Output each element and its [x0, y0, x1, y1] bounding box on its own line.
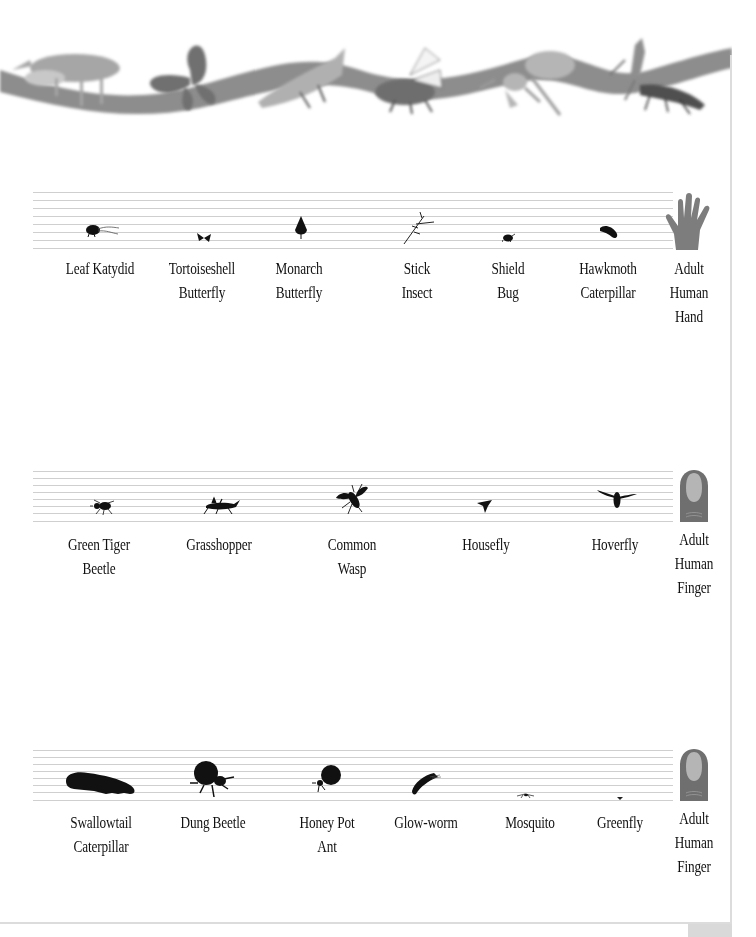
label-leaf-katydid: Leaf Katydid: [61, 257, 139, 281]
label-greenfly: Greenfly: [581, 811, 659, 835]
specimen-shield-bug: [502, 228, 516, 246]
specimen-grasshopper: [202, 496, 242, 520]
caterpillar-icon: [598, 224, 620, 240]
greenfly-icon: [617, 796, 623, 801]
glow-worm-icon: [410, 771, 442, 795]
label-tortoiseshell-butterfly: Tortoiseshell Butterfly: [163, 257, 241, 305]
label-shield-bug: Shield Bug: [469, 257, 547, 305]
grasshopper-icon: [202, 496, 242, 516]
hoverfly-icon: [595, 488, 639, 510]
staff-lines: [33, 192, 673, 250]
label-adult-human-hand: Adult Human Hand: [662, 257, 717, 329]
finger-icon: [678, 470, 710, 522]
shield-bug-icon: [502, 232, 516, 242]
specimen-hawkmoth-caterpillar: [598, 224, 620, 244]
label-hoverfly: Hoverfly: [576, 533, 654, 557]
reference-finger: [678, 749, 710, 805]
wasp-icon: [334, 482, 370, 518]
label-green-tiger-beetle: Green Tiger Beetle: [60, 533, 138, 581]
size-row-2: Green Tiger Beetle Grasshopper Common Wa…: [0, 468, 732, 618]
insect-banner: [0, 30, 732, 130]
specimen-common-wasp: [334, 482, 370, 522]
page-edge-right: [730, 55, 732, 924]
label-glow-worm: Glow-worm: [387, 811, 465, 835]
page-edge-bottom: [0, 922, 732, 924]
specimen-swallowtail-caterpillar: [64, 769, 138, 799]
specimen-honey-pot-ant: [312, 763, 342, 797]
honey-pot-ant-icon: [312, 763, 342, 793]
label-stick-insect: Stick Insect: [378, 257, 456, 305]
beetle-icon: [90, 498, 116, 516]
specimen-housefly: [476, 498, 494, 518]
label-monarch-butterfly: Monarch Butterfly: [260, 257, 338, 305]
specimen-greenfly: [617, 787, 623, 805]
specimen-monarch-butterfly: [294, 216, 308, 244]
size-row-1: Leaf Katydid Tortoiseshell Butterfly Mon…: [0, 190, 732, 340]
size-row-3: Swallowtail Caterpillar Dung Beetle Hone…: [0, 747, 732, 897]
specimen-glow-worm: [410, 771, 442, 799]
specimen-dung-beetle: [190, 759, 238, 803]
finger-icon: [678, 749, 710, 801]
specimen-mosquito: [517, 785, 535, 803]
label-grasshopper: Grasshopper: [180, 533, 258, 557]
label-hawkmoth-caterpillar: Hawkmoth Caterpillar: [569, 257, 647, 305]
page-corner-tab: [688, 924, 732, 937]
label-swallowtail-caterpillar: Swallowtail Caterpillar: [62, 811, 140, 859]
label-honey-pot-ant: Honey Pot Ant: [288, 811, 366, 859]
ribbon: [0, 48, 732, 114]
label-adult-human-finger: Adult Human Finger: [667, 807, 722, 879]
specimen-green-tiger-beetle: [90, 498, 116, 520]
reference-hand: [664, 192, 714, 254]
label-housefly: Housefly: [447, 533, 525, 557]
specimen-tortoiseshell-butterfly: [196, 230, 212, 248]
specimen-stick-insect: [402, 210, 436, 250]
dung-beetle-icon: [190, 759, 238, 799]
mosquito-icon: [517, 791, 535, 799]
reference-finger: [678, 470, 710, 526]
label-common-wasp: Common Wasp: [313, 533, 391, 581]
specimen-leaf-katydid: [84, 222, 120, 242]
earwig-icon: [640, 84, 705, 114]
butterfly-icon: [196, 232, 212, 244]
label-adult-human-finger: Adult Human Finger: [667, 528, 722, 600]
specimen-hoverfly: [595, 488, 639, 514]
label-dung-beetle: Dung Beetle: [174, 811, 252, 835]
katydid-icon: [84, 222, 120, 238]
hand-icon: [664, 192, 714, 250]
monarch-icon: [294, 216, 308, 240]
stick-insect-icon: [402, 210, 436, 246]
label-mosquito: Mosquito: [491, 811, 569, 835]
housefly-icon: [476, 498, 494, 514]
caterpillar-icon: [64, 769, 138, 795]
